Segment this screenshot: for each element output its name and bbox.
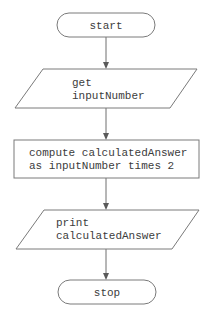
stop-label: stop	[94, 287, 120, 299]
connector-process-to-output	[103, 178, 109, 210]
input-label-line-1: get	[72, 77, 92, 89]
connector-input-to-process	[103, 108, 109, 140]
process-rectangle: compute calculatedAnswer as inputNumber …	[14, 140, 199, 178]
start-label: start	[89, 20, 122, 32]
input-parallelogram: get inputNumber	[15, 69, 197, 108]
connector-start-to-input	[103, 37, 109, 69]
output-label-line-1: print	[56, 217, 89, 229]
input-label-line-2: inputNumber	[72, 90, 145, 102]
arrowhead-icon	[103, 273, 109, 280]
arrowhead-icon	[103, 133, 109, 140]
process-label-line-2: as inputNumber times 2	[29, 160, 174, 172]
arrowhead-icon	[103, 203, 109, 210]
start-terminator: start	[57, 13, 155, 37]
flowchart: start get inputNumber compute calculated…	[0, 0, 217, 316]
arrowhead-icon	[103, 62, 109, 69]
stop-terminator: stop	[58, 280, 156, 304]
process-label-line-1: compute calculatedAnswer	[29, 147, 187, 159]
output-parallelogram: print calculatedAnswer	[16, 210, 199, 249]
connector-output-to-stop	[103, 249, 109, 280]
output-label-line-2: calculatedAnswer	[56, 230, 162, 242]
